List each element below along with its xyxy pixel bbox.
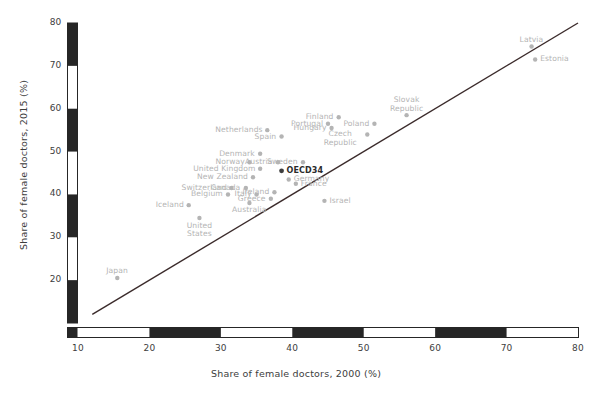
x-tick-label: 70: [492, 343, 522, 353]
data-point[interactable]: [251, 175, 255, 179]
point-label: Spain: [255, 133, 277, 141]
y-axis-bar-block: [68, 23, 78, 66]
point-label: United States: [177, 222, 221, 239]
y-tick-label: 40: [28, 188, 62, 198]
data-point[interactable]: [372, 122, 376, 126]
point-label: Poland: [343, 120, 369, 128]
x-tick-label: 80: [563, 343, 592, 353]
reference-line: [92, 23, 578, 314]
data-point[interactable]: [272, 190, 276, 194]
data-point[interactable]: [258, 152, 262, 156]
data-point[interactable]: [258, 167, 262, 171]
data-point[interactable]: [533, 57, 537, 61]
point-label: Iceland: [156, 201, 184, 209]
y-tick-label: 80: [28, 17, 62, 27]
data-point[interactable]: [337, 115, 341, 119]
data-point[interactable]: [287, 177, 291, 181]
data-point[interactable]: [187, 203, 191, 207]
y-axis-bar: [68, 23, 78, 323]
scatter-chart: Share of female doctors, 2015 (%) Share …: [0, 0, 592, 396]
x-tick-label: 50: [349, 343, 379, 353]
y-tick-label: 30: [28, 231, 62, 241]
data-point[interactable]: [197, 216, 201, 220]
reference-line-group: [92, 23, 578, 314]
y-axis-bar-block: [68, 109, 78, 152]
point-label: Estonia: [540, 55, 569, 63]
y-tick-label: 50: [28, 146, 62, 156]
data-point[interactable]: [404, 113, 408, 117]
point-label: Israel: [329, 197, 350, 205]
x-axis-bar-block: [292, 328, 363, 338]
x-tick-label: 30: [206, 343, 236, 353]
y-tick-label: 70: [28, 60, 62, 70]
point-label: France: [301, 180, 327, 188]
point-label: Czech Republic: [318, 130, 362, 147]
x-tick-label: 10: [63, 343, 93, 353]
x-tick-label: 20: [134, 343, 164, 353]
y-axis-bar-block: [68, 194, 78, 237]
y-axis-bar-block: [68, 280, 78, 323]
point-label: Greece: [238, 195, 266, 203]
point-label: Latvia: [520, 36, 544, 44]
point-label: Belgium: [191, 190, 223, 198]
point-label: Australia: [232, 206, 267, 214]
x-tick-label: 60: [420, 343, 450, 353]
data-point[interactable]: [322, 199, 326, 203]
point-label: Slovak Republic: [385, 96, 429, 113]
plot-area: [0, 0, 592, 396]
data-point[interactable]: [269, 197, 273, 201]
data-point[interactable]: [529, 44, 533, 48]
data-point[interactable]: [279, 168, 284, 173]
y-tick-label: 60: [28, 103, 62, 113]
point-label: New Zealand: [197, 173, 248, 181]
point-label: Portugal: [291, 120, 323, 128]
x-axis-bar-block: [435, 328, 506, 338]
data-point[interactable]: [301, 160, 305, 164]
x-axis-bar-block: [149, 328, 220, 338]
axis-corner-block: [68, 328, 78, 338]
data-point[interactable]: [226, 192, 230, 196]
y-tick-label: 20: [28, 274, 62, 284]
data-point[interactable]: [279, 134, 283, 138]
point-label: Japan: [106, 267, 128, 275]
data-point[interactable]: [115, 276, 119, 280]
data-point[interactable]: [365, 132, 369, 136]
x-tick-label: 40: [277, 343, 307, 353]
data-points-group: [115, 44, 537, 280]
